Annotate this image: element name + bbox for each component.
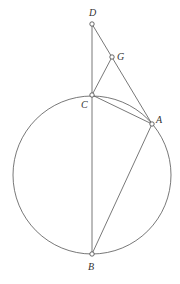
point-C — [90, 93, 94, 97]
label-D: D — [88, 7, 97, 18]
point-B — [90, 252, 94, 256]
segment-DA — [92, 24, 152, 124]
segment-AB — [92, 124, 152, 254]
label-C: C — [81, 99, 88, 110]
point-A — [150, 122, 154, 126]
point-G — [110, 55, 114, 59]
point-D — [90, 22, 94, 26]
label-B: B — [88, 261, 94, 272]
geometry-diagram: D G C A B — [0, 0, 180, 284]
label-G: G — [117, 51, 124, 62]
segment-CG — [92, 57, 112, 95]
label-A: A — [155, 114, 163, 125]
